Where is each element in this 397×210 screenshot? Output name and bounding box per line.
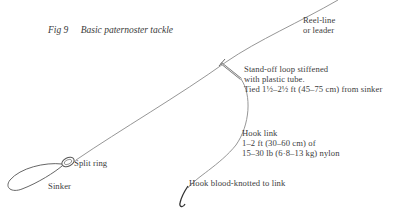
reel-line-label: Reel-line or leader — [303, 15, 335, 35]
hook-label: Hook blood-knotted to link — [189, 178, 285, 188]
stand-off-loop-label: Stand-off loop stiffened with plastic tu… — [244, 64, 382, 94]
split-ring-label: Split ring — [74, 158, 107, 168]
hook-link-line — [188, 79, 248, 188]
stand-off-tube-inner — [221, 63, 241, 79]
hook-icon — [180, 186, 188, 207]
sinker-label: Sinker — [48, 181, 71, 191]
figure-caption: Fig 9 Basic paternoster tackle — [48, 25, 173, 35]
hook-link-label: Hook link 1–2 ft (30–60 cm) of 15–30 lb … — [242, 128, 340, 158]
main-line — [76, 62, 226, 160]
figure-number: Fig 9 — [48, 25, 68, 35]
figure-title: Basic paternoster tackle — [81, 25, 173, 35]
